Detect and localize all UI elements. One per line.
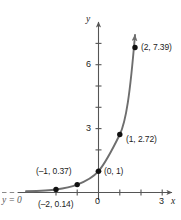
exponential-graph-figure: y x 6 3 0 3 y = 0 (–2, 0.14) (–1, 0.37) … — [0, 0, 181, 220]
y-tick-label-3: 3 — [86, 124, 91, 133]
x-axis-label: x — [171, 197, 175, 207]
point-label-neg2: (–2, 0.14) — [38, 200, 73, 209]
asymptote-label: y = 0 — [2, 196, 22, 206]
point-label-one: (1, 2.72) — [126, 135, 157, 144]
data-point — [117, 132, 122, 137]
point-label-neg1: (–1, 0.37) — [36, 167, 71, 176]
point-label-two: (2, 7.39) — [141, 43, 172, 52]
data-point — [96, 169, 101, 174]
data-point — [75, 182, 80, 187]
x-tick-label-0: 0 — [95, 197, 100, 206]
x-tick-label-3: 3 — [159, 197, 164, 206]
data-point — [53, 187, 58, 192]
point-label-zero: (0, 1) — [104, 167, 123, 176]
y-tick-label-6: 6 — [86, 60, 91, 69]
y-axis-label: y — [86, 15, 90, 25]
data-point — [132, 45, 137, 50]
graph-canvas — [0, 0, 181, 220]
